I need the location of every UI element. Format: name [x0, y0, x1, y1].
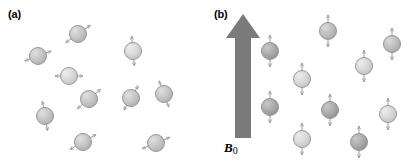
spin-marker	[384, 28, 401, 60]
spin-sphere	[123, 90, 140, 107]
b0-subscript: 0	[233, 145, 238, 156]
b0-symbol: B	[224, 140, 233, 155]
panel-b: (b) B0	[207, 0, 415, 164]
b0-field-arrow	[226, 14, 260, 138]
spin-marker	[262, 35, 279, 67]
spin-sphere	[351, 134, 368, 151]
panel-a-spin-group	[25, 25, 173, 151]
spin-sphere	[30, 48, 47, 65]
spin-marker	[380, 98, 397, 130]
spin-sphere	[262, 43, 279, 60]
spin-sphere	[61, 68, 78, 85]
spin-marker	[66, 25, 91, 42]
spin-sphere	[75, 134, 92, 151]
spin-marker	[37, 101, 54, 131]
spin-marker	[351, 126, 368, 158]
spin-sphere	[125, 43, 142, 60]
spin-marker	[262, 91, 279, 123]
panel-b-canvas	[207, 0, 415, 164]
spin-marker	[294, 123, 311, 155]
spin-marker	[123, 86, 140, 110]
panel-b-label: (b)	[214, 9, 227, 20]
spin-marker	[322, 94, 339, 126]
spin-sphere	[294, 131, 311, 148]
spin-marker	[156, 81, 173, 107]
spin-sphere	[81, 91, 98, 108]
spin-sphere	[156, 86, 173, 103]
spin-marker	[125, 36, 142, 66]
panel-a: (a)	[0, 0, 207, 164]
spin-sphere	[320, 23, 337, 40]
spin-sphere	[380, 106, 397, 123]
spin-sphere	[356, 58, 373, 75]
spin-sphere	[70, 26, 87, 43]
spin-marker	[142, 135, 170, 152]
b0-field-label: B0	[224, 141, 238, 156]
spin-sphere	[37, 108, 54, 125]
spin-marker	[294, 63, 311, 95]
spin-sphere	[148, 135, 165, 152]
panel-a-label: (a)	[8, 9, 21, 20]
spin-marker	[356, 50, 373, 82]
spin-orientation-figure: (a)	[0, 0, 415, 164]
spin-sphere	[294, 71, 311, 88]
spin-marker	[70, 134, 96, 151]
spin-sphere	[322, 102, 339, 119]
spin-marker	[320, 15, 337, 47]
spin-marker	[55, 68, 83, 85]
spin-marker	[78, 89, 101, 108]
b0-arrow-shape	[226, 14, 260, 138]
panel-a-canvas	[0, 0, 207, 164]
spin-sphere	[262, 99, 279, 116]
spin-marker	[25, 48, 51, 65]
panel-b-spin-group	[262, 15, 401, 158]
spin-sphere	[384, 36, 401, 53]
